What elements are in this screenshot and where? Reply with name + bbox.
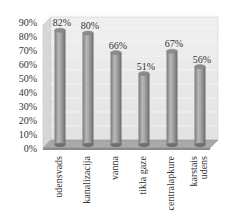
y-tick-label: 10% — [19, 129, 37, 140]
chart-floor — [43, 140, 218, 150]
x-tick-label: centralapkure — [165, 155, 176, 210]
x-tick-label: vanna — [109, 155, 120, 179]
y-tick-label: 0% — [24, 143, 37, 154]
y-tick-label: 20% — [19, 115, 37, 126]
y-tick-label: 70% — [19, 45, 37, 56]
data-label: 66% — [109, 40, 127, 51]
y-axis: 0%10%20%30%40%50%60%70%80%90% — [19, 17, 37, 154]
side-wall — [43, 17, 51, 148]
y-tick-label: 90% — [19, 17, 37, 28]
data-label: 67% — [165, 38, 183, 49]
y-tick-label: 30% — [19, 101, 37, 112]
y-tick-label: 50% — [19, 73, 37, 84]
x-tick-label: tikla gaze — [137, 155, 148, 194]
back-wall — [51, 17, 218, 140]
x-tick-label: udensvads — [53, 156, 64, 198]
y-tick-label: 80% — [19, 31, 37, 42]
y-tick-label: 40% — [19, 87, 37, 98]
floor-edge — [43, 148, 210, 150]
data-label: 82% — [53, 17, 71, 28]
bar-chart: 0%10%20%30%40%50%60%70%80%90% 82%80%66%5… — [0, 0, 234, 219]
data-label: 56% — [193, 54, 211, 65]
floor-top — [43, 140, 218, 148]
data-label: 51% — [137, 61, 155, 72]
data-label: 80% — [81, 20, 99, 31]
x-axis: udensvadskanalizacijavannatikla gazecent… — [53, 155, 209, 210]
x-tick-label: kanalizacija — [81, 155, 92, 203]
y-tick-label: 60% — [19, 59, 37, 70]
x-tick-label: karstaisudens — [188, 156, 209, 187]
plot-area — [43, 17, 218, 148]
